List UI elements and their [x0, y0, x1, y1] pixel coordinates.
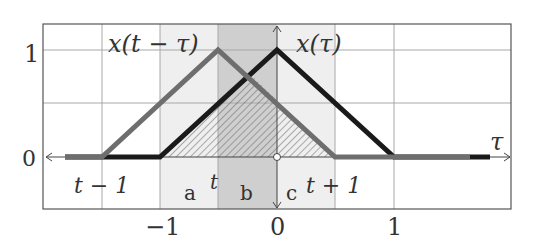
x-tick-neg1: −1 [145, 213, 180, 241]
label-x-shifted: x(t − τ) [108, 30, 199, 58]
region-a: a [184, 181, 196, 205]
label-t-minus-1: t − 1 [74, 173, 129, 198]
label-t-plus-1: t + 1 [306, 173, 361, 198]
region-c: c [286, 181, 297, 205]
x-axis-label: τ [490, 128, 504, 156]
label-t: t [210, 170, 219, 194]
label-x-orig: x(τ) [296, 30, 342, 58]
x-tick-0: 0 [270, 213, 285, 241]
region-b: b [240, 181, 253, 205]
y-tick-1: 1 [24, 40, 39, 68]
origin-marker [274, 154, 281, 161]
x-tick-1: 1 [387, 213, 402, 241]
convolution-diagram: x(t − τ) x(τ) 1 0 τ t − 1 t t + 1 a b c … [0, 0, 534, 247]
y-tick-0: 0 [22, 146, 36, 171]
